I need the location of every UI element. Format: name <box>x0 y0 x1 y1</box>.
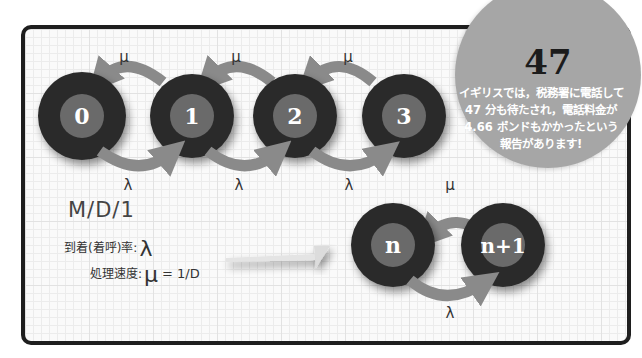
lambda-label: λ <box>446 304 455 322</box>
service-rate-label: 処理速度: <box>90 267 142 281</box>
callout-badge: 47 イギリスでは，税務署に電話して 47 分も待たされ，電話料金が 4.66 … <box>455 0 641 168</box>
callout-line: 報告があります! <box>441 136 641 153</box>
state-label-0: 0 <box>74 103 89 129</box>
state-label-n-plus-1: n+1 <box>480 234 525 258</box>
state-label-1: 1 <box>184 103 199 129</box>
callout-text: イギリスでは，税務署に電話して 47 分も待たされ，電話料金が 4.66 ポンド… <box>441 85 641 153</box>
state-label-3: 3 <box>396 103 411 129</box>
arrival-rate-param: 到着(着呼)率:λ <box>64 236 152 261</box>
callout-number: 47 <box>455 42 641 82</box>
mu-label: μ <box>445 176 455 194</box>
queue-model-title: M/D/1 <box>68 198 135 222</box>
mu-label: μ <box>119 48 129 66</box>
lambda-label: λ <box>235 176 244 194</box>
lambda-label: λ <box>124 176 133 194</box>
mu-label: μ <box>231 48 241 66</box>
service-rate-param: 処理速度:μ= 1/D <box>90 262 200 287</box>
lambda-symbol: λ <box>139 236 152 261</box>
arrival-rate-label: 到着(着呼)率: <box>64 241 137 255</box>
state-label-n: n <box>385 232 401 258</box>
service-rate-formula: = 1/D <box>162 266 200 281</box>
callout-line: イギリスでは，税務署に電話して <box>441 85 641 102</box>
continuation-arrow <box>226 246 330 268</box>
callout-line: 4.66 ポンドもかかったという <box>441 119 641 136</box>
callout-line: 47 分も待たされ，電話料金が <box>441 102 641 119</box>
lambda-label: λ <box>345 176 354 194</box>
state-label-2: 2 <box>287 103 302 129</box>
mu-label: μ <box>343 48 353 66</box>
mu-symbol: μ <box>144 262 158 287</box>
